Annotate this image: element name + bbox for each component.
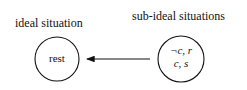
diagram-canvas — [0, 0, 247, 90]
sub-ideal-line-1: ¬c, r — [159, 44, 203, 57]
ideal-node-text: rest — [35, 52, 79, 64]
sub-ideal-node-text: ¬c, r c, s — [159, 44, 203, 70]
sub-ideal-line-2: c, s — [159, 57, 203, 70]
